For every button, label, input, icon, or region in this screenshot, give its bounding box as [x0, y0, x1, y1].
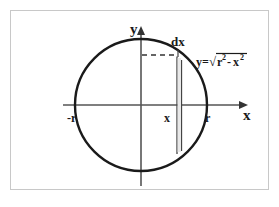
radical-sign-icon: √: [209, 54, 217, 69]
circle-integration-diagram: y x dx -r r x y= √ r 2 - x 2: [0, 0, 279, 207]
x-axis-label: x: [243, 107, 251, 123]
radicand-x-exponent: 2: [240, 53, 244, 62]
equation-lead: y=: [196, 55, 209, 69]
strip-fill: [178, 58, 181, 152]
dx-label: dx: [171, 34, 185, 49]
radicand-x: x: [233, 55, 239, 69]
radicand-r-exponent: 2: [222, 53, 226, 62]
equation-operator: -: [227, 55, 231, 69]
neg-r-label: -r: [67, 111, 77, 125]
r-label: r: [205, 111, 211, 125]
figure-frame: [11, 11, 269, 190]
x-tick-label: x: [164, 111, 170, 125]
figure-container: y x dx -r r x y= √ r 2 - x 2: [0, 0, 279, 207]
y-axis-label: y: [130, 21, 138, 37]
